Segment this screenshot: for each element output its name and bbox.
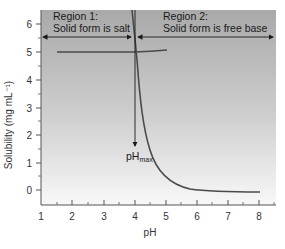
x-axis-title: pH [144,227,157,238]
x-tick-2: 2 [69,211,75,222]
x-tick-8: 8 [256,211,262,222]
region2-desc: Solid form is free base [163,22,268,34]
y-tick-2: 2 [26,130,32,141]
y-tick-labels: 0 1 2 3 4 5 6 [26,19,32,196]
y-tick-1: 1 [26,158,32,169]
y-tick-0: 0 [26,185,32,196]
y-tick-6: 6 [26,19,32,30]
x-tick-7: 7 [225,211,231,222]
region1-title: Region 1: [53,10,98,22]
y-axis-title: Solubility (mg mL⁻¹) [3,81,14,169]
x-tick-4: 4 [132,211,138,222]
x-tick-5: 5 [163,211,169,222]
x-tick-6: 6 [194,211,200,222]
region2-title: Region 2: [163,10,208,22]
y-axis [36,10,41,205]
y-tick-3: 3 [26,103,32,114]
region1-desc: Solid form is salt [53,22,130,34]
x-tick-1: 1 [38,211,44,222]
x-tick-3: 3 [101,211,107,222]
x-tick-labels: 1 2 3 4 5 6 7 8 [38,211,262,222]
solubility-chart: 0 1 2 3 4 5 6 1 2 3 4 5 6 7 8 p [0,0,285,249]
y-tick-5: 5 [26,47,32,58]
y-tick-4: 4 [26,75,32,86]
plot-area [41,10,276,205]
